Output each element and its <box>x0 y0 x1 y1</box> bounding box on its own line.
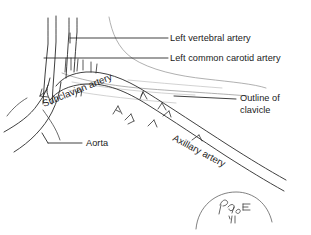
branch-stub-11 <box>192 135 202 141</box>
aorta-branch-left <box>7 98 27 116</box>
branch-stub-3 <box>91 62 97 73</box>
signature-arc <box>196 192 272 229</box>
artist-signature <box>196 192 272 229</box>
branch-stub-5 <box>140 92 147 99</box>
branch-stub-9 <box>148 120 157 127</box>
signature-year-mark <box>229 216 235 223</box>
aorta-descending-edge <box>43 110 60 140</box>
label-subclavian-artery: Subclavian artery <box>41 71 114 109</box>
label-outline-of-clavicle-line2: clavicle <box>240 105 271 115</box>
vertebral-right-wall <box>74 18 77 72</box>
label-left-vertebral-artery: Left vertebral artery <box>170 33 251 43</box>
branch-stub-10 <box>163 111 171 117</box>
label-left-common-carotid-artery: Left common carotid artery <box>170 53 281 63</box>
leader-clavicle <box>174 96 236 99</box>
vertebral-left-wall <box>66 18 69 78</box>
label-outline-of-clavicle-line1: Outline of <box>240 93 280 103</box>
label-axillary-artery: Axillary artery <box>171 132 228 169</box>
leader-aorta-tick <box>42 133 48 143</box>
vessel-branch-stubs <box>65 58 202 141</box>
label-aorta: Aorta <box>86 138 109 148</box>
signature-monogram-icon <box>219 200 250 214</box>
branch-stub-8 <box>125 114 134 124</box>
common-carotid-right-wall <box>52 16 56 104</box>
branch-stub-1 <box>65 58 71 72</box>
clavicle-shading-3 <box>128 80 222 88</box>
branch-stub-2 <box>77 59 83 71</box>
anatomical-figure: Left vertebral artery Left common caroti… <box>0 0 311 235</box>
branch-stub-7 <box>113 106 122 114</box>
